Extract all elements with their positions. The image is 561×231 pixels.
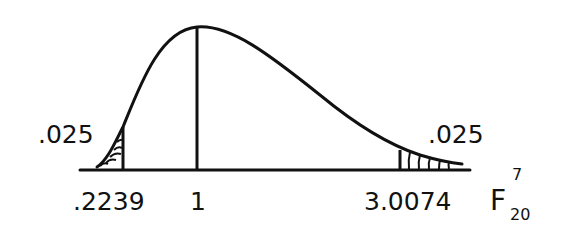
left-tail-area-label: .025 — [38, 120, 94, 149]
distribution-label: F — [490, 184, 506, 217]
right-tail-area-label: .025 — [428, 120, 484, 149]
df-numerator-label: 7 — [512, 165, 522, 184]
density-curve — [97, 27, 462, 167]
tick-label-one: 1 — [190, 187, 206, 216]
df-denominator-label: 20 — [510, 205, 530, 224]
tick-label-upper-critical: 3.0074 — [364, 187, 451, 216]
f-distribution-diagram: .025 .025 .2239 1 3.0074 F 7 20 — [0, 0, 561, 231]
tick-label-lower-critical: .2239 — [73, 187, 145, 216]
